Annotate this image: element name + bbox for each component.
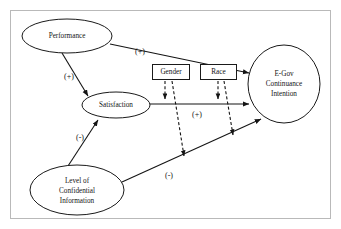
- confidential-label-line2: Confidential: [59, 187, 95, 195]
- gender-label: Gender: [160, 68, 182, 76]
- node-egov-continuance-intention[interactable]: E-Gov Continuance Intention: [248, 45, 320, 123]
- edge-race-moderates-confidential-egov: [224, 81, 233, 135]
- edge-confidential-to-egov: [122, 119, 261, 182]
- research-model-figure: Performance Satisfaction Level of Confid…: [0, 0, 341, 229]
- node-gender[interactable]: Gender: [153, 65, 190, 80]
- sign-confidential-to-egov: (-): [165, 171, 173, 180]
- performance-label: Performance: [49, 32, 86, 40]
- satisfaction-label: Satisfaction: [99, 101, 133, 109]
- race-label: Race: [211, 68, 225, 76]
- node-race[interactable]: Race: [201, 65, 237, 80]
- node-confidential-information[interactable]: Level of Confidential Information: [30, 165, 124, 215]
- egov-label-line1: E-Gov: [274, 70, 294, 78]
- model-diagram-canvas: Performance Satisfaction Level of Confid…: [0, 0, 341, 229]
- confidential-label-line3: Information: [60, 197, 95, 205]
- node-performance[interactable]: Performance: [22, 19, 112, 53]
- sign-performance-to-satisfaction: (+): [64, 72, 74, 81]
- edge-confidential-to-satisfaction: [68, 120, 98, 166]
- sign-performance-to-egov: (+): [135, 47, 145, 56]
- sign-satisfaction-to-egov: (+): [192, 110, 202, 119]
- sign-confidential-to-satisfaction: (-): [76, 133, 84, 142]
- confidential-label-line1: Level of: [65, 177, 90, 185]
- node-satisfaction[interactable]: Satisfaction: [82, 92, 150, 118]
- egov-label-line3: Intention: [271, 90, 297, 98]
- edge-gender-moderates-confidential-egov: [172, 81, 184, 156]
- egov-label-line2: Continuance: [266, 80, 302, 88]
